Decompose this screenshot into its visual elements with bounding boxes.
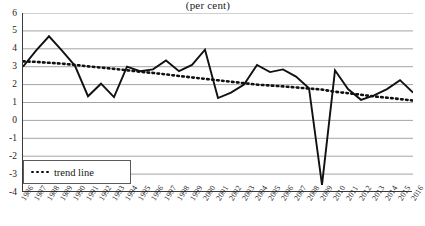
chart-title: (per cent) xyxy=(0,0,416,11)
y-axis-tick-5: 5 xyxy=(0,26,17,35)
y-axis-tick-2: 2 xyxy=(0,80,17,89)
legend-item-label: trend line xyxy=(54,167,94,178)
y-axis-tick-neg1: -1 xyxy=(0,134,17,143)
y-axis-tick-4: 4 xyxy=(0,44,17,53)
y-axis-tick-1: 1 xyxy=(0,98,17,107)
y-axis-tick-neg2: -2 xyxy=(0,152,17,161)
y-axis-tick-neg3: -3 xyxy=(0,170,17,179)
y-axis-tick-0: 0 xyxy=(0,116,17,125)
y-axis-tick-6: 6 xyxy=(0,9,17,18)
chart-legend: trend line xyxy=(23,160,131,184)
y-axis-tick-3: 3 xyxy=(0,62,17,71)
x-axis-tick-labels: 1986198719881989199019911992199319941995… xyxy=(0,192,416,226)
dotted-line-icon xyxy=(31,171,49,174)
